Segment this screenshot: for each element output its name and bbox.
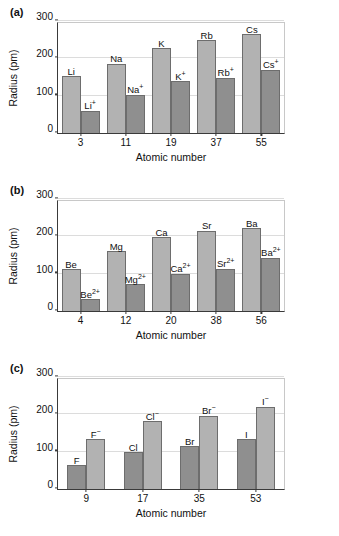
bar-label: F−: [91, 430, 101, 440]
x-tick-mark: [142, 489, 143, 492]
bar-K: K: [152, 48, 171, 133]
plot-area: 0100200300BeBe2+4MgMg2+12CaCa2+20SrSr2+3…: [57, 200, 285, 312]
bar-label: Br−: [202, 406, 216, 416]
y-tick-label: 200: [36, 48, 53, 59]
bar-F: F−: [86, 439, 105, 489]
bar-label: Mg2+: [125, 275, 146, 285]
bar-group: ClCl−17: [124, 379, 162, 489]
x-tick-mark: [125, 311, 126, 314]
bar-group: RbRb+37: [197, 23, 235, 133]
bar-Ba: Ba: [242, 228, 261, 311]
bar-Be: Be: [62, 269, 81, 311]
chart-panel-1: (a)Radius (pm)0100200300LiLi+3NaNa+11KK+…: [0, 0, 339, 178]
x-tick-label: 55: [256, 137, 267, 148]
bar-group: BaBa2+56: [242, 201, 280, 311]
y-tick-mark: [55, 19, 58, 20]
y-tick-label: 300: [36, 189, 53, 200]
bar-label: I−: [262, 397, 269, 407]
bar-label: Sr: [202, 221, 212, 231]
x-tick-label: 11: [121, 137, 131, 148]
x-tick-mark: [261, 311, 262, 314]
bar-group: CaCa2+20: [152, 201, 190, 311]
bar-label: Mg: [110, 242, 123, 252]
bar-Na: Na: [107, 64, 126, 133]
bar-Cs: Cs+: [261, 70, 280, 133]
bar-group: CsCs+55: [242, 23, 280, 133]
x-tick-mark: [199, 489, 200, 492]
bar-Rb: Rb: [197, 40, 216, 133]
bar-label: Ba2+: [261, 248, 281, 258]
plot-area-wrapper: 0100200300FF−9ClCl−17BrBr−35II−53: [57, 378, 285, 490]
bar-group: BeBe2+4: [62, 201, 100, 311]
y-tick-label: 300: [36, 367, 53, 378]
bar-label: Br: [185, 437, 195, 447]
bar-label: Sr2+: [217, 259, 234, 269]
panel-label: (c): [10, 362, 23, 374]
chart-panel-2: (b)Radius (pm)0100200300BeBe2+4MgMg2+12C…: [0, 178, 339, 356]
x-tick-mark: [80, 311, 81, 314]
x-tick-mark: [216, 311, 217, 314]
panel-label: (b): [10, 184, 24, 196]
y-tick-label: 200: [36, 404, 53, 415]
x-tick-mark: [170, 133, 171, 136]
bar-Br: Br: [180, 446, 199, 489]
gridline: [58, 20, 284, 21]
bar-group: MgMg2+12: [107, 201, 145, 311]
bar-group: SrSr2+38: [197, 201, 235, 311]
x-tick-mark: [80, 133, 81, 136]
bar-group: II−53: [237, 379, 275, 489]
bar-Ba2: Ba2+: [261, 258, 280, 311]
bar-Ca2: Ca2+: [171, 274, 190, 311]
bar-Br: Br−: [199, 416, 218, 489]
bar-label: Li+: [84, 101, 96, 111]
bar-I: I: [237, 439, 256, 489]
gridline: [58, 198, 284, 199]
x-axis-title: Atomic number: [57, 151, 285, 163]
x-tick-mark: [125, 133, 126, 136]
bar-label: Ca: [155, 228, 167, 238]
y-axis-title: Radius (pm): [6, 22, 20, 134]
x-tick-label: 17: [137, 493, 148, 504]
y-tick-mark: [55, 197, 58, 198]
panel-label: (a): [10, 6, 23, 18]
y-tick-label: 0: [47, 123, 53, 134]
bar-label: Ca2+: [170, 264, 190, 274]
bar-Li: Li: [62, 76, 81, 133]
x-tick-label: 35: [194, 493, 205, 504]
bar-Cs: Cs: [242, 34, 261, 133]
x-tick-mark: [170, 311, 171, 314]
plot-area-wrapper: 0100200300BeBe2+4MgMg2+12CaCa2+20SrSr2+3…: [57, 200, 285, 312]
y-tick-label: 100: [36, 441, 53, 452]
bar-label: Cl: [129, 443, 138, 453]
bar-label: Ba: [246, 219, 258, 229]
bar-F: F: [67, 465, 86, 489]
x-tick-mark: [86, 489, 87, 492]
x-tick-mark: [216, 133, 217, 136]
bar-Sr: Sr: [197, 231, 216, 311]
bar-label: Li: [67, 67, 74, 77]
bar-Cl: Cl: [124, 452, 143, 489]
bar-label: Be2+: [80, 290, 100, 300]
y-axis-title: Radius (pm): [6, 378, 20, 490]
bar-label: Be: [65, 260, 77, 270]
x-tick-label: 4: [78, 315, 84, 326]
bar-label: Cl−: [146, 412, 159, 422]
bar-label: K+: [175, 72, 185, 82]
y-tick-label: 200: [36, 226, 53, 237]
bar-Rb: Rb+: [216, 78, 235, 133]
bar-label: F: [74, 456, 80, 466]
bar-group: LiLi+3: [62, 23, 100, 133]
y-tick-label: 0: [47, 479, 53, 490]
figure-ionic-radii: (a)Radius (pm)0100200300LiLi+3NaNa+11KK+…: [0, 0, 339, 536]
y-axis-title: Radius (pm): [6, 200, 20, 312]
bar-Li: Li+: [81, 111, 100, 133]
x-axis-title: Atomic number: [57, 507, 285, 519]
y-tick-label: 100: [36, 263, 53, 274]
x-tick-label: 53: [250, 493, 261, 504]
chart-panel-3: (c)Radius (pm)0100200300FF−9ClCl−17BrBr−…: [0, 356, 339, 534]
x-tick-label: 38: [211, 315, 222, 326]
bar-label: Na: [110, 54, 122, 64]
bar-label: Cs: [246, 25, 258, 35]
bar-Cl: Cl−: [143, 421, 162, 489]
x-tick-label: 12: [120, 315, 131, 326]
